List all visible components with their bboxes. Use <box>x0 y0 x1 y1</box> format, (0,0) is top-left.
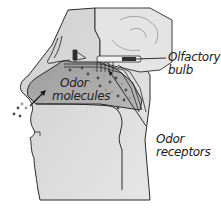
olfactory-bulb-label: Olfactory bulb <box>168 51 220 77</box>
head-cross-section-illustration <box>0 0 221 211</box>
brain <box>95 8 172 72</box>
odor-receptors-label: Odor receptors <box>156 133 210 159</box>
olfaction-diagram: Olfactory bulb Odor molecules Odor recep… <box>0 0 221 211</box>
odor-molecules-label: Odor molecules <box>52 77 110 103</box>
